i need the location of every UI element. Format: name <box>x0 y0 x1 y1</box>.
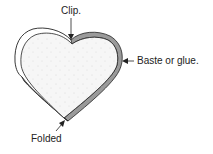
folded-label: Folded <box>31 134 62 144</box>
baste-arrowhead <box>122 58 128 64</box>
baste-label: Baste or glue. <box>137 56 199 66</box>
heart-fabric <box>21 33 118 118</box>
clip-label: Clip. <box>61 6 81 16</box>
heart-diagram <box>0 0 213 154</box>
